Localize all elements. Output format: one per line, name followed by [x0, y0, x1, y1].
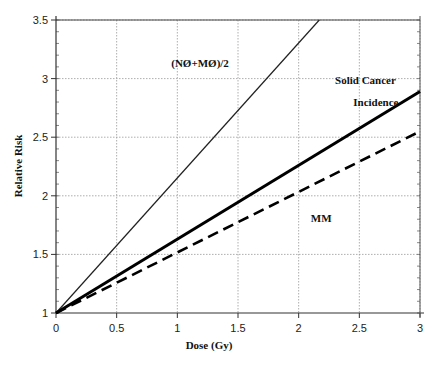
- grid: [56, 20, 420, 313]
- y-tick-label: 1: [42, 307, 48, 319]
- x-tick-label: 0.5: [109, 322, 124, 334]
- chart: 00.511.522.5311.522.533.5 (NØ+MØ)/2Solid…: [0, 0, 438, 366]
- y-tick-label: 1.5: [33, 248, 48, 260]
- y-tick-label: 3: [42, 73, 48, 85]
- x-tick-label: 0: [53, 322, 59, 334]
- y-tick-label: 2.5: [33, 131, 48, 143]
- x-tick-label: 2.5: [352, 322, 367, 334]
- series-thick-solid: [56, 91, 420, 313]
- x-axis-label: Dose (Gy): [186, 339, 233, 352]
- y-tick-label: 2: [42, 190, 48, 202]
- x-tick-label: 1.5: [230, 322, 245, 334]
- x-tick-label: 3: [417, 322, 423, 334]
- annotation: (NØ+MØ)/2: [171, 57, 229, 70]
- annotation: MM: [311, 212, 332, 224]
- annotation: Incidence: [353, 96, 398, 108]
- y-axis-label: Relative Risk: [12, 134, 24, 198]
- annotation: Solid Cancer: [335, 74, 396, 86]
- y-tick-label: 3.5: [33, 14, 48, 26]
- x-tick-label: 2: [296, 322, 302, 334]
- x-tick-label: 1: [174, 322, 180, 334]
